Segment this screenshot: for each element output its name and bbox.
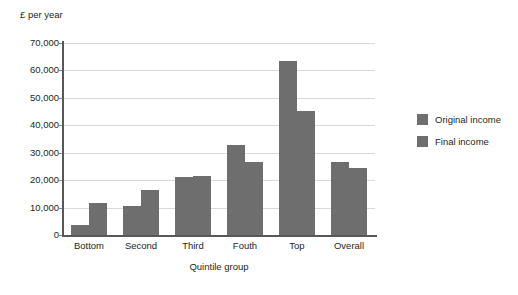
y-axis-tick-label: 60,000 xyxy=(30,65,59,75)
bar-final-income[interactable] xyxy=(297,111,315,235)
x-axis-tick-label: Fouth xyxy=(219,239,271,252)
y-axis-tick-label: 70,000 xyxy=(30,38,59,48)
bar-group xyxy=(175,43,211,235)
bar-final-income[interactable] xyxy=(245,162,263,235)
bar-group xyxy=(227,43,263,235)
x-axis-tick-label: Second xyxy=(115,239,167,252)
chart-legend: Original incomeFinal income xyxy=(417,111,501,155)
bar-final-income[interactable] xyxy=(141,190,159,235)
bar-chart: £ per year 010,00020,00030,00040,00050,0… xyxy=(0,0,518,295)
bar-group xyxy=(279,43,315,235)
y-axis-ticks: 010,00020,00030,00040,00050,00060,00070,… xyxy=(0,0,59,295)
bar-original-income[interactable] xyxy=(227,145,245,236)
bar-final-income[interactable] xyxy=(89,203,107,235)
bar-final-income[interactable] xyxy=(193,176,211,235)
bar-original-income[interactable] xyxy=(123,206,141,235)
legend-item[interactable]: Original income xyxy=(417,111,501,128)
y-axis-tick-label: 10,000 xyxy=(30,203,59,213)
y-axis-tick-label: 50,000 xyxy=(30,93,59,103)
x-axis-tick-labels: BottomSecondThirdFouthTopOverall xyxy=(63,239,375,255)
x-axis-line xyxy=(62,235,377,237)
bar-original-income[interactable] xyxy=(279,61,297,235)
bar-original-income[interactable] xyxy=(71,225,89,235)
bar-group xyxy=(123,43,159,235)
bar-series-layer xyxy=(63,43,375,235)
legend-swatch-icon xyxy=(417,136,428,147)
legend-label: Final income xyxy=(435,136,489,148)
y-axis-tick-label: 40,000 xyxy=(30,120,59,130)
x-axis-tick-label: Overall xyxy=(323,239,375,252)
bottom-artifact-text xyxy=(0,285,518,295)
bar-original-income[interactable] xyxy=(331,162,349,235)
y-axis-tick-label: 20,000 xyxy=(30,175,59,185)
bar-group xyxy=(331,43,367,235)
legend-item[interactable]: Final income xyxy=(417,133,501,150)
x-axis-tick-label: Third xyxy=(167,239,219,252)
x-axis-tick-label: Bottom xyxy=(63,239,115,252)
bar-group xyxy=(71,43,107,235)
legend-label: Original income xyxy=(435,114,501,126)
y-axis-tick-label: 30,000 xyxy=(30,148,59,158)
bar-final-income[interactable] xyxy=(349,168,367,235)
x-axis-tick-label: Top xyxy=(271,239,323,252)
legend-swatch-icon xyxy=(417,114,428,125)
x-axis-title: Quintile group xyxy=(63,261,375,273)
bar-original-income[interactable] xyxy=(175,177,193,235)
